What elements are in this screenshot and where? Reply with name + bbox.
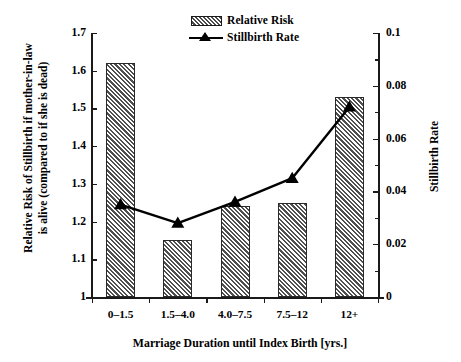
y-axis-left-tick-label: 1.5 [26,101,86,114]
y-axis-right-tick-label: 0.06 [386,131,446,144]
chart-figure: Relative Risk Stillbirth Rate Relative R… [0,0,461,362]
y-axis-right-tick-label: 0.04 [386,184,446,197]
line-series-stillbirth-rate [92,33,378,298]
y-axis-left-tick-label: 1.2 [26,214,86,227]
y-axis-right-tick-label: 0.1 [386,26,446,39]
y-axis-left-tick-label: 1.7 [26,26,86,39]
y-axis-right-tick-label: 0 [386,290,446,303]
plot-area: 11.11.21.31.41.51.61.7 00.020.040.060.08… [92,33,378,297]
y-axis-right-tick-label: 0.02 [386,237,446,250]
y-axis-left-tick-label: 1 [26,290,86,303]
y-axis-left-tick-label: 1.4 [26,139,86,152]
y-axis-title-right: Stillbirth Rate [428,77,441,237]
y-axis-left-tick-label: 1.3 [26,176,86,189]
legend-label-relative-risk: Relative Risk [227,14,294,27]
y-axis-left-tick-label: 1.6 [26,63,86,76]
y-axis-right-line [378,33,380,298]
hatched-swatch-icon [185,16,227,26]
stillbirth-rate-marker [343,100,356,111]
stillbirth-rate-marker [114,198,127,209]
legend-item-relative-risk: Relative Risk [185,12,360,29]
x-axis-title: Marriage Duration until Index Birth [yrs… [40,336,440,351]
x-axis-tick [378,297,379,303]
y-axis-left-tick-label: 1.1 [26,252,86,265]
y-axis-right-tick-label: 0.08 [386,78,446,91]
x-axis-tick-label: 12+ [309,308,389,320]
